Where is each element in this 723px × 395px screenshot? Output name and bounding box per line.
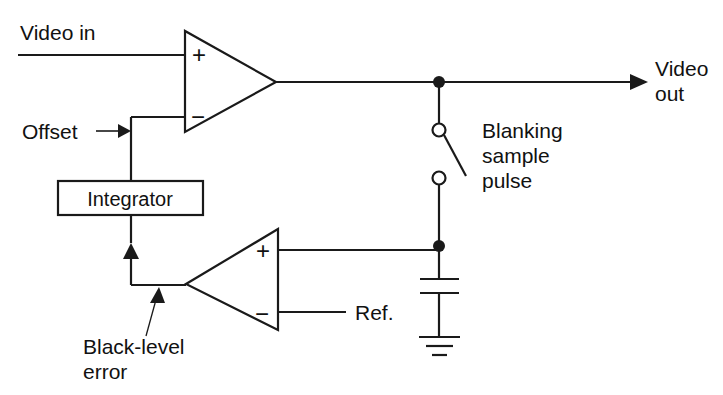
sample-switch[interactable] [433,82,467,246]
video-out-label-line2: out [655,82,684,105]
circuit-canvas: + − [0,0,723,395]
offset-label: Offset [22,120,78,143]
blanking-label-line3: pulse [482,169,532,192]
opamp-bottom-minus-sign: − [255,300,269,327]
blanking-label-line1: Blanking [482,119,563,142]
blanking-label-line2: sample [482,144,550,167]
integrator-input-arrowhead-icon [123,243,139,259]
opamp-top-minus-sign: − [191,103,205,130]
black-level-error-pointer [146,287,165,336]
ref-label: Ref. [355,301,394,324]
circuit-diagram: + − [0,0,723,395]
black-level-label-line1: Black-level [83,335,185,358]
opamp-bottom: + − [186,229,278,330]
opamp-bottom-plus-sign: + [256,237,270,264]
switch-bottom-terminal[interactable] [433,172,446,185]
integrator-label: Integrator [87,188,173,210]
integrator-block: Integrator [58,181,203,243]
offset-arrowhead-icon [118,124,131,138]
switch-blade[interactable] [444,135,466,176]
black-level-pointer-arrowhead-icon [150,287,165,303]
hold-capacitor [420,246,459,337]
black-level-label-line2: error [83,360,127,383]
opamp-top: + − [185,31,276,132]
opamp-top-plus-sign: + [192,41,206,68]
ground-symbol [419,337,460,355]
video-out-arrowhead-icon [630,74,648,90]
switch-top-terminal[interactable] [433,124,446,137]
video-in-label: Video in [20,21,96,44]
video-out-label-line1: Video [655,57,708,80]
